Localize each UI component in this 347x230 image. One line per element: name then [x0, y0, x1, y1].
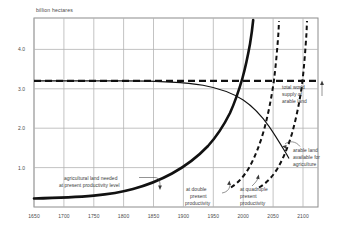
- y-tick-3: 3.0: [18, 86, 25, 92]
- annotation-quadruple-line-3: productivity: [240, 201, 266, 206]
- x-tick-1900: 1900: [178, 213, 190, 219]
- annotation-available-line-1: arable land: [293, 148, 318, 153]
- x-tick-1850: 1850: [148, 213, 160, 219]
- y-tick-4: 4.0: [18, 46, 25, 52]
- annotation-available-line-2: available for: [293, 155, 320, 160]
- annotation-double-line-2: present: [190, 194, 207, 199]
- x-tick-2000: 2000: [237, 213, 249, 219]
- x-tick-2100: 2100: [297, 213, 309, 219]
- annotation-total-supply-line-2: supply of: [282, 92, 303, 97]
- annotation-quadruple-line-2: present: [240, 194, 257, 199]
- annotation-quadruple-line-1: at quadruple: [240, 187, 268, 192]
- x-tick-1650: 1650: [28, 213, 40, 219]
- y-tick-1: 1.0: [18, 165, 25, 171]
- x-tick-1950: 1950: [208, 213, 220, 219]
- annotation-double-line-1: at double: [186, 187, 207, 192]
- y-tick-2: 2.0: [18, 125, 25, 131]
- x-tick-1800: 1800: [118, 213, 130, 219]
- annotation-double-line-3: productivity: [185, 201, 211, 206]
- x-tick-2050: 2050: [267, 213, 279, 219]
- y-axis-title: billion hectares: [36, 7, 73, 13]
- annotation-land-needed-line-1: agricultural land needed: [64, 176, 118, 181]
- arable-land-chart: billion hectares 1.0 2.0 3.0 4.0 1650 17…: [0, 0, 347, 230]
- x-tick-1700: 1700: [58, 213, 70, 219]
- chart-background: [0, 0, 347, 230]
- annotation-available-line-3: agriculture: [293, 162, 317, 167]
- annotation-land-needed-line-2: at present productivity level: [59, 183, 120, 188]
- annotation-total-supply-line-3: arable land: [282, 99, 307, 104]
- x-tick-1750: 1750: [88, 213, 100, 219]
- annotation-total-supply-line-1: total world: [282, 85, 305, 90]
